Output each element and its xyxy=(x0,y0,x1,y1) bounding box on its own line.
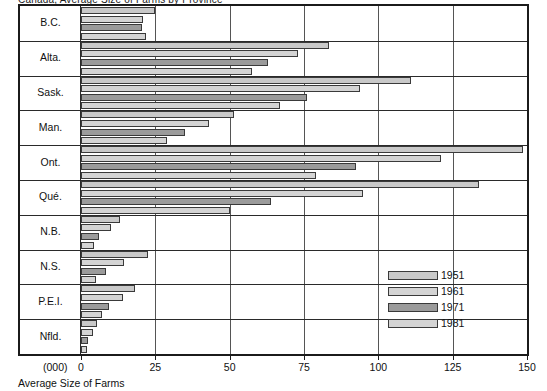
bar-man-1961 xyxy=(81,120,209,127)
row-separator xyxy=(20,180,527,181)
legend-label-1951: 1951 xyxy=(441,270,464,281)
bar-bc-1961 xyxy=(81,16,143,23)
bar-ont-1961 xyxy=(81,155,441,162)
x-axis-unit-label: (000) xyxy=(43,361,68,373)
bar-ns-1951 xyxy=(81,251,148,258)
row-separator xyxy=(20,76,527,77)
bar-nb-1971 xyxy=(81,233,99,240)
x-axis: 0255075100125150 xyxy=(18,356,529,376)
x-tick-label-100: 100 xyxy=(370,361,388,373)
category-label-alta: Alta. xyxy=(20,51,81,63)
bar-nfld-1971 xyxy=(81,337,88,344)
bar-qu-1961 xyxy=(81,190,363,197)
category-label-ont: Ont. xyxy=(20,156,81,168)
x-tick-label-125: 125 xyxy=(444,361,462,373)
bar-alta-1951 xyxy=(81,42,329,49)
bar-nb-1981 xyxy=(81,242,94,249)
x-tick-0 xyxy=(81,356,82,360)
bar-nfld-1981 xyxy=(81,346,87,353)
row-separator xyxy=(20,110,527,111)
legend-swatch-1981 xyxy=(388,319,438,328)
bar-sask-1971 xyxy=(81,94,307,101)
bar-man-1951 xyxy=(81,111,234,118)
bar-pei-1981 xyxy=(81,311,102,318)
bar-sask-1961 xyxy=(81,85,360,92)
legend-item-1961: 1961 xyxy=(388,284,464,298)
legend-swatch-1951 xyxy=(388,271,438,280)
legend-label-1971: 1971 xyxy=(441,302,464,313)
bar-pei-1951 xyxy=(81,285,135,292)
x-tick-label-150: 150 xyxy=(518,361,536,373)
x-tick-label-75: 75 xyxy=(298,361,310,373)
x-tick-100 xyxy=(378,356,379,360)
bar-bc-1971 xyxy=(81,24,142,31)
x-tick-label-50: 50 xyxy=(224,361,236,373)
row-separator xyxy=(20,215,527,216)
bar-ont-1951 xyxy=(81,146,523,153)
bar-alta-1961 xyxy=(81,50,298,57)
bar-group-bc xyxy=(81,6,527,41)
bar-group-qu xyxy=(81,180,527,215)
category-label-nb: N.B. xyxy=(20,225,81,237)
category-label-sask: Sask. xyxy=(20,86,81,98)
bar-sask-1981 xyxy=(81,102,280,109)
bar-bc-1951 xyxy=(81,7,155,14)
bar-nb-1961 xyxy=(81,224,111,231)
legend-label-1981: 1981 xyxy=(441,318,464,329)
bar-group-man xyxy=(81,110,527,145)
bar-group-sask xyxy=(81,76,527,111)
bar-ns-1971 xyxy=(81,268,106,275)
bar-bc-1981 xyxy=(81,33,146,40)
category-label-pei: P.E.I. xyxy=(20,295,81,307)
bar-sask-1951 xyxy=(81,77,411,84)
category-label-nfld: Nfld. xyxy=(20,330,81,342)
x-tick-50 xyxy=(230,356,231,360)
legend: 1951196119711981 xyxy=(388,268,464,332)
bar-man-1971 xyxy=(81,129,185,136)
category-label-ns: N.S. xyxy=(20,260,81,272)
bar-qu-1971 xyxy=(81,198,271,205)
bar-nb-1951 xyxy=(81,216,120,223)
bar-group-alta xyxy=(81,41,527,76)
row-separator xyxy=(20,250,527,251)
row-separator xyxy=(20,41,527,42)
category-label-bc: B.C. xyxy=(20,16,81,28)
bar-group-ont xyxy=(81,145,527,180)
x-tick-label-0: 0 xyxy=(78,361,84,373)
bar-ont-1981 xyxy=(81,172,316,179)
category-label-qu: Qué. xyxy=(20,190,81,202)
row-separator xyxy=(20,145,527,146)
bar-qu-1951 xyxy=(81,181,479,188)
bar-qu-1981 xyxy=(81,207,230,214)
x-tick-75 xyxy=(304,356,305,360)
bar-pei-1961 xyxy=(81,294,123,301)
category-label-man: Man. xyxy=(20,121,81,133)
chart-page: Canada, Average Size of Farms by Provinc… xyxy=(0,0,547,391)
chart-caption: Average Size of Farms xyxy=(18,377,125,389)
legend-item-1981: 1981 xyxy=(388,316,464,330)
legend-swatch-1971 xyxy=(388,303,438,312)
bar-nfld-1961 xyxy=(81,329,93,336)
bar-pei-1971 xyxy=(81,303,109,310)
legend-swatch-1961 xyxy=(388,287,438,296)
legend-item-1971: 1971 xyxy=(388,300,464,314)
x-tick-150 xyxy=(527,356,528,360)
x-tick-25 xyxy=(155,356,156,360)
legend-item-1951: 1951 xyxy=(388,268,464,282)
bar-ns-1981 xyxy=(81,276,96,283)
bar-alta-1971 xyxy=(81,59,268,66)
bar-group-nb xyxy=(81,215,527,250)
x-tick-label-25: 25 xyxy=(149,361,161,373)
bar-ns-1961 xyxy=(81,259,124,266)
x-tick-125 xyxy=(453,356,454,360)
bar-alta-1981 xyxy=(81,68,252,75)
bar-nfld-1951 xyxy=(81,320,97,327)
bar-ont-1971 xyxy=(81,163,356,170)
bar-man-1981 xyxy=(81,137,167,144)
legend-label-1961: 1961 xyxy=(441,286,464,297)
